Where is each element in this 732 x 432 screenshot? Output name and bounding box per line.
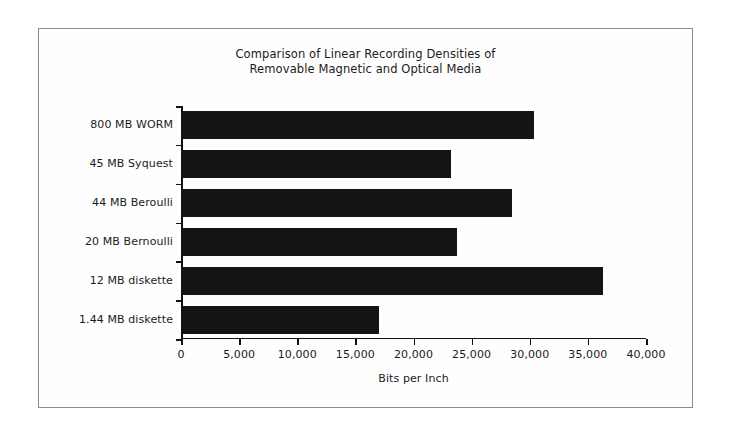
x-axis-tick	[646, 339, 648, 345]
chart-title: Comparison of Linear Recording Densities…	[39, 47, 692, 77]
bar	[181, 111, 534, 139]
x-axis-tick	[181, 339, 183, 345]
y-axis-tick	[176, 145, 182, 147]
x-axis-tick-label: 40,000	[626, 348, 665, 361]
bar	[181, 150, 451, 178]
x-axis-tick	[297, 339, 299, 345]
bar-row	[181, 306, 646, 334]
y-axis-label: 45 MB Syquest	[89, 157, 173, 170]
x-axis-tick-label: 35,000	[568, 348, 607, 361]
chart-title-line-2: Removable Magnetic and Optical Media	[39, 62, 692, 77]
bar	[181, 228, 457, 256]
y-axis-label: 12 MB diskette	[90, 274, 173, 287]
x-axis-tick	[588, 339, 590, 345]
y-axis-label: 20 MB Bernoulli	[85, 235, 173, 248]
y-axis-label: 800 MB WORM	[90, 118, 173, 131]
x-axis-tick	[472, 339, 474, 345]
chart-title-line-1: Comparison of Linear Recording Densities…	[39, 47, 692, 62]
y-axis-category-labels: 800 MB WORM45 MB Syquest44 MB Beroulli20…	[39, 106, 173, 339]
x-axis-tick	[239, 339, 241, 345]
plot-area: 05,00010,00015,00020,00025,00030,00035,0…	[181, 106, 646, 339]
x-axis-title: Bits per Inch	[181, 372, 646, 385]
y-axis-tick	[176, 184, 182, 186]
x-axis-tick-label: 0	[177, 348, 184, 361]
y-axis-tick	[176, 223, 182, 225]
x-axis-tick	[414, 339, 416, 345]
chart-frame: Comparison of Linear Recording Densities…	[38, 28, 693, 408]
y-axis-tick	[176, 261, 182, 263]
x-axis-tick-label: 5,000	[223, 348, 255, 361]
x-axis-tick	[355, 339, 357, 345]
y-axis-tick	[176, 106, 182, 108]
x-axis-tick	[530, 339, 532, 345]
bar-row	[181, 111, 646, 139]
bar-row	[181, 189, 646, 217]
y-axis-tick	[176, 300, 182, 302]
x-axis-tick-label: 30,000	[510, 348, 549, 361]
x-axis-tick-label: 20,000	[394, 348, 433, 361]
bar	[181, 189, 512, 217]
x-axis-tick-label: 10,000	[278, 348, 317, 361]
x-axis-tick-label: 25,000	[452, 348, 491, 361]
bar	[181, 306, 379, 334]
bar-row	[181, 150, 646, 178]
bar-row	[181, 228, 646, 256]
x-axis-tick-label: 15,000	[336, 348, 375, 361]
bar-row	[181, 267, 646, 295]
y-axis-label: 44 MB Beroulli	[92, 196, 173, 209]
y-axis-label: 1.44 MB diskette	[79, 313, 173, 326]
bar	[181, 267, 603, 295]
